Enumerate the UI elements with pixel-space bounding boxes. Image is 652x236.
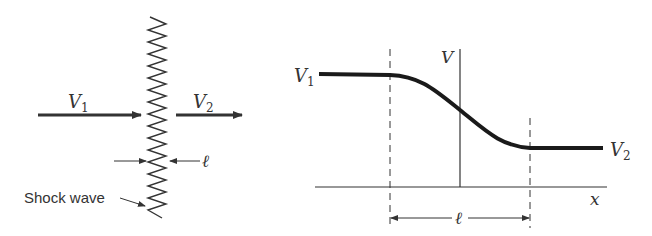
thickness-dimension-label: ℓ [455, 208, 462, 228]
shock-wave-diagram: V1 V2 ℓ Shock wave V x V1 V2 [0, 0, 652, 236]
velocity-profile-curve [319, 74, 603, 148]
shock-wave-zigzag [148, 17, 166, 218]
shock-wave-label: Shock wave [24, 189, 105, 206]
downstream-level-label: V2 [610, 139, 631, 163]
downstream-velocity-label: V2 [193, 91, 214, 115]
shock-wave-leader-arrow [120, 198, 145, 206]
left-panel: V1 V2 ℓ Shock wave [24, 17, 242, 218]
thickness-label: ℓ [202, 151, 209, 171]
x-axis-label: x [590, 189, 600, 209]
upstream-level-label: V1 [294, 65, 315, 89]
y-axis-label: V [441, 47, 455, 67]
upstream-velocity-label: V1 [68, 91, 89, 115]
right-panel: V x V1 V2 ℓ [294, 47, 631, 228]
